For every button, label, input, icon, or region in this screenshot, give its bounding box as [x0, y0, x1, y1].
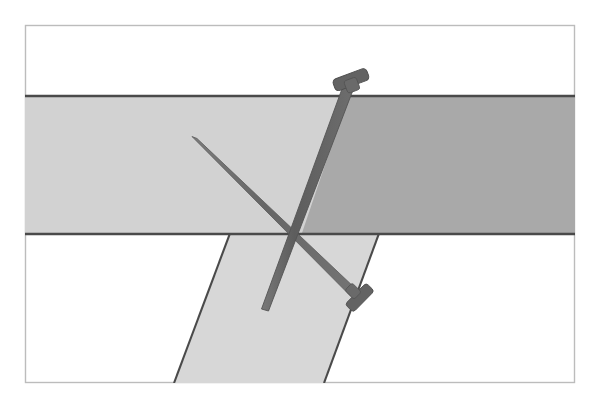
figure-canvas: [0, 0, 599, 405]
illustration-svg: [0, 0, 599, 405]
